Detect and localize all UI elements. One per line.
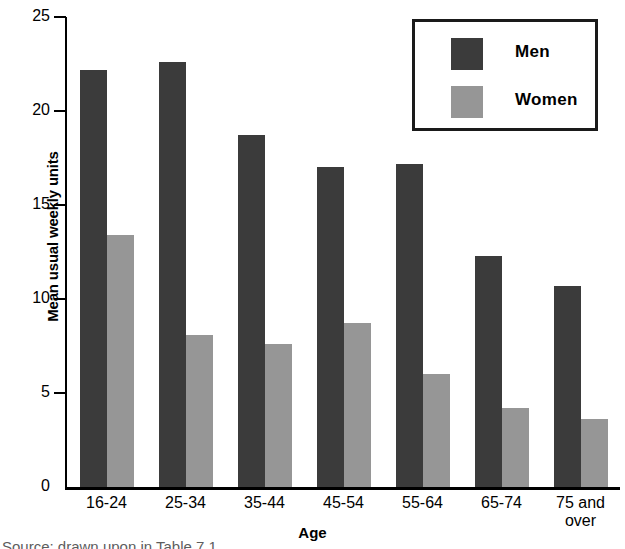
- bar-women-55-64: [423, 374, 450, 487]
- y-tick-label: 20: [16, 102, 50, 118]
- bar-women-65-74: [502, 408, 529, 487]
- legend-label-men: Men: [515, 42, 550, 62]
- y-tick-label: 10: [16, 290, 50, 306]
- chart-legend: Men Women: [412, 19, 598, 131]
- y-tick-label: 5: [16, 384, 50, 400]
- bar-group: [80, 17, 134, 487]
- legend-item-men: Men: [415, 34, 595, 74]
- y-axis-title: Mean usual weekly units: [44, 87, 61, 387]
- y-tick-label: 0: [16, 478, 50, 494]
- bar-chart-figure: Mean usual weekly units 0510152025 16-24…: [0, 0, 625, 549]
- bar-men-55-64: [396, 164, 423, 487]
- bar-women-16-24: [107, 235, 134, 487]
- bar-women-75-and-over: [581, 419, 608, 487]
- bar-women-25-34: [186, 335, 213, 487]
- legend-item-women: Women: [415, 82, 595, 122]
- bar-women-35-44: [265, 344, 292, 487]
- bar-men-25-34: [159, 62, 186, 487]
- bar-men-35-44: [238, 135, 265, 487]
- legend-swatch-women: [451, 86, 483, 118]
- legend-label-women: Women: [515, 90, 578, 110]
- bar-group: [317, 17, 371, 487]
- bar-men-65-74: [475, 256, 502, 487]
- footer-caption: Source: drawn upon in Table 7.1: [2, 538, 322, 549]
- bar-men-75-and-over: [554, 286, 581, 487]
- legend-swatch-men: [451, 38, 483, 70]
- y-tick-label: 15: [16, 196, 50, 212]
- bar-men-45-54: [317, 167, 344, 487]
- bar-women-45-54: [344, 323, 371, 487]
- y-tick-label: 25: [16, 8, 50, 24]
- bar-group: [159, 17, 213, 487]
- bar-group: [238, 17, 292, 487]
- bar-men-16-24: [80, 70, 107, 487]
- x-axis-line: [65, 487, 620, 490]
